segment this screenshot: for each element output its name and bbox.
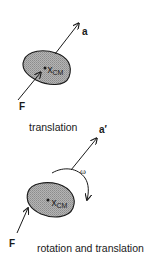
force-arrow [17, 208, 28, 233]
center-of-mass-dot [47, 199, 50, 202]
center-of-mass-dot [44, 67, 47, 70]
force-label: F [9, 238, 15, 249]
acceleration-label: a [82, 26, 88, 37]
acceleration-arrow [55, 23, 79, 54]
caption-translation: translation [29, 121, 78, 133]
acceleration-label: a′ [99, 124, 108, 135]
force-label: F [19, 101, 25, 112]
panel-translation: a F xCM translation [18, 23, 88, 133]
angular-velocity-label: ω [80, 166, 86, 176]
force-diagram: a F xCM translation a′ ω F xCM rotation … [0, 0, 166, 268]
panel-rotation-translation: a′ ω F xCM rotation and translation [9, 124, 144, 254]
caption-rotation-and-translation: rotation and translation [37, 242, 144, 254]
